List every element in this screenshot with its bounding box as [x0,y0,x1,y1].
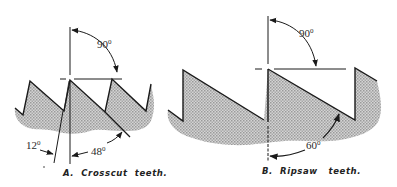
crosscut-angle-90-label: 900 [97,38,112,50]
ripsaw-angle-60-label: 600 [306,139,321,151]
ripsaw-figure: 900 600 B. Ripsaw teeth. [168,16,381,176]
crosscut-figure: 900 120 480 A. Crosscut teeth. [15,27,167,178]
crosscut-blade-shading [15,79,154,134]
ripsaw-caption: B. Ripsaw teeth. [262,166,361,176]
crosscut-angle-48-label: 480 [91,145,106,157]
crosscut-caption: A. Crosscut teeth. [62,168,167,178]
crosscut-angle-12-label: 120 [26,139,41,151]
ripsaw-angle-90-label: 900 [299,27,314,39]
saw-teeth-diagram: 900 120 480 A. Crosscut teeth. 900 600 B… [0,0,397,187]
